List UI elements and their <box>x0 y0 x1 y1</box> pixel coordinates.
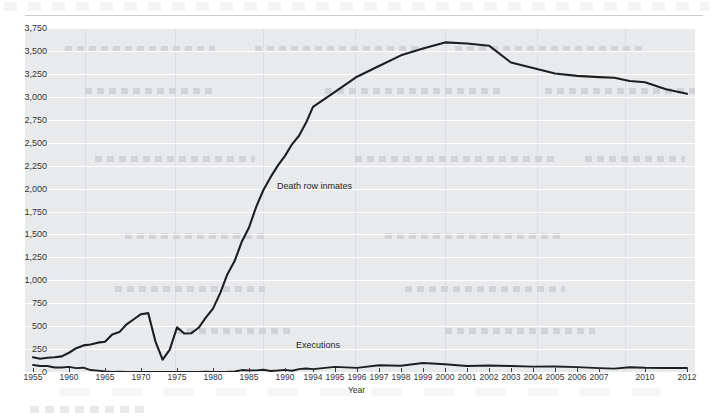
scan-bleed-caption <box>30 406 150 413</box>
x-axis-tick-label: 1999 <box>414 372 433 382</box>
x-axis-tick-label: 1995 <box>326 372 345 382</box>
x-axis-tick-label: 2003 <box>502 372 521 382</box>
y-axis-tick-label: 750 <box>32 298 47 308</box>
x-axis-tick-label: 2002 <box>480 372 499 382</box>
x-axis-tick-label: 1997 <box>370 372 389 382</box>
x-axis-tick-label: 2007 <box>590 372 609 382</box>
x-axis-tick-label: 1980 <box>204 372 223 382</box>
x-axis-tick-label: 1996 <box>348 372 367 382</box>
y-axis-tick-label: 1,000 <box>24 275 47 285</box>
series-lines <box>25 28 695 372</box>
x-axis-tick-label: 2001 <box>458 372 477 382</box>
x-axis-tick-label: 1975 <box>168 372 187 382</box>
x-axis-tick-label: 1990 <box>276 372 295 382</box>
x-axis-tick-label: 1960 <box>60 372 79 382</box>
x-axis-tick-label: 2010 <box>636 372 655 382</box>
series-label-executions: Executions <box>296 340 340 350</box>
x-axis-tick-label: 2012 <box>678 372 697 382</box>
y-axis-tick-label: 3,500 <box>24 46 47 56</box>
y-axis-tick-label: 3,750 <box>24 23 47 33</box>
x-axis-tick-label: 1985 <box>240 372 259 382</box>
y-axis-tick-label: 2,500 <box>24 138 47 148</box>
x-axis-tick-label: 1994 <box>304 372 323 382</box>
top-rule <box>25 15 703 16</box>
x-axis-tick-label: 1998 <box>392 372 411 382</box>
x-axis-tick-label: 1970 <box>132 372 151 382</box>
y-axis-tick-label: 1,750 <box>24 207 47 217</box>
x-axis-tick-label: 2000 <box>436 372 455 382</box>
y-axis-tick-label: 500 <box>32 321 47 331</box>
y-axis-tick-label: 250 <box>32 344 47 354</box>
scan-bleed-top <box>4 2 709 11</box>
line-executions <box>33 363 687 372</box>
x-axis-labels: 1955196019651970197519801985199019941995… <box>0 372 713 386</box>
line-death-row-inmates <box>33 42 687 359</box>
y-axis-tick-label: 2,000 <box>24 184 47 194</box>
scan-bleed-bottom <box>60 388 660 396</box>
y-axis-tick-label: 3,250 <box>24 69 47 79</box>
y-axis-tick-label: 1,250 <box>24 252 47 262</box>
y-axis-tick-label: 2,250 <box>24 161 47 171</box>
y-axis-tick-label: 1,500 <box>24 229 47 239</box>
y-axis-labels: 3,7503,5003,2503,0002,7502,5002,2502,000… <box>0 28 47 372</box>
y-axis-tick-label: 2,750 <box>24 115 47 125</box>
series-label-death-row-inmates: Death row inmates <box>277 181 352 191</box>
x-axis-tick-label: 2005 <box>546 372 565 382</box>
y-axis-tick-label: 3,000 <box>24 92 47 102</box>
plot-area <box>25 28 695 372</box>
chart-figure: 3,7503,5003,2503,0002,7502,5002,2502,000… <box>0 0 713 420</box>
x-axis-tick-label: 1965 <box>96 372 115 382</box>
x-axis-tick-label: 2006 <box>568 372 587 382</box>
x-axis-tick-label: 1955 <box>24 372 43 382</box>
x-axis-tick-label: 2004 <box>524 372 543 382</box>
